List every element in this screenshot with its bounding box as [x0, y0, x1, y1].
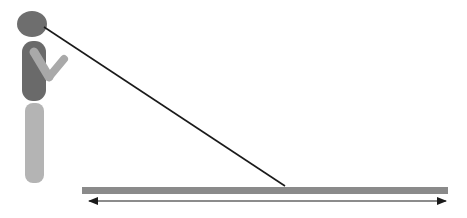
person-forearm [49, 59, 64, 77]
person-figure [17, 11, 64, 183]
diagram-canvas [0, 0, 467, 218]
ground-bar [82, 187, 448, 194]
person-legs [25, 103, 44, 183]
diagram-svg [0, 0, 467, 218]
sight-line [44, 27, 285, 186]
person-head [17, 11, 47, 37]
